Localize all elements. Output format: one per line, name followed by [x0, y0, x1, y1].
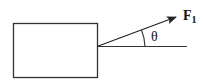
angle-label: θ	[151, 29, 158, 44]
block	[14, 24, 98, 78]
force-diagram: θ F1	[0, 0, 203, 82]
angle-arc	[142, 30, 146, 47]
force-vector-arrow	[97, 17, 176, 47]
force-label: F1	[183, 8, 197, 25]
